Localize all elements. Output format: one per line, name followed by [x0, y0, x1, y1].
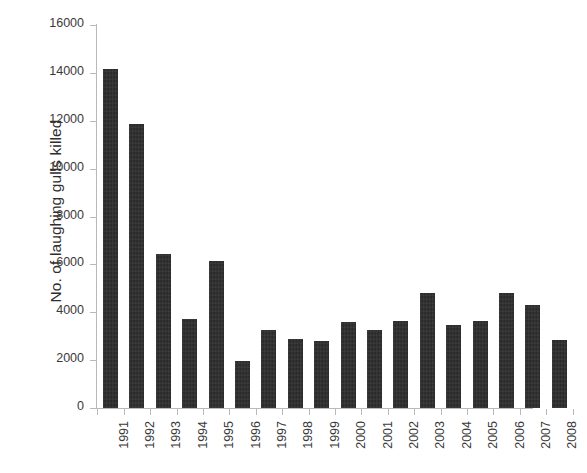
y-axis-tick-label: 16000 [49, 16, 84, 30]
bar [393, 321, 408, 408]
bar [261, 330, 276, 408]
x-axis-tick-mark [309, 409, 310, 415]
y-axis-tick-mark [90, 121, 96, 122]
bar [499, 293, 514, 408]
bar [209, 261, 224, 408]
x-axis-tick-mark [493, 409, 494, 415]
y-axis-tick-label: 6000 [56, 255, 84, 269]
x-axis-tick-label: 1992 [143, 421, 157, 473]
x-axis-tick-mark [150, 409, 151, 415]
bar [341, 322, 356, 408]
x-axis-tick-label: 2002 [407, 421, 421, 473]
x-axis-tick-mark [441, 409, 442, 415]
bar [129, 124, 144, 408]
bar [367, 330, 382, 408]
plot-area: 1600014000120001000080006000400020000 19… [96, 25, 532, 409]
x-axis-tick-label: 1991 [117, 421, 131, 473]
x-axis-tick-mark [177, 409, 178, 415]
x-axis-tick-mark [229, 409, 230, 415]
y-axis-tick-label: 0 [77, 399, 84, 413]
x-axis-tick-label: 1995 [222, 421, 236, 473]
x-axis-tick-mark [335, 409, 336, 415]
x-axis-tick-label: 2004 [460, 421, 474, 473]
x-axis-tick-mark [124, 409, 125, 415]
bar [288, 339, 303, 408]
x-axis-tick-mark [467, 409, 468, 415]
x-axis-tick-label: 1997 [275, 421, 289, 473]
y-axis-tick-label: 2000 [56, 351, 84, 365]
y-axis-tick-mark [90, 360, 96, 361]
y-axis-tick-mark [90, 25, 96, 26]
x-axis-tick-mark [203, 409, 204, 415]
bar [525, 305, 540, 408]
x-axis-tick-mark [282, 409, 283, 415]
bar [156, 254, 171, 408]
bar [552, 340, 567, 408]
y-axis-tick-mark [90, 217, 96, 218]
bar [473, 321, 488, 408]
x-axis-tick-mark [97, 409, 98, 415]
y-axis-tick-mark [90, 73, 96, 74]
x-axis-tick-mark [361, 409, 362, 415]
x-axis-tick-mark [546, 409, 547, 415]
y-axis-tick-label: 4000 [56, 303, 84, 317]
x-axis-tick-label: 2005 [486, 421, 500, 473]
x-axis-tick-mark [414, 409, 415, 415]
x-axis-tick-label: 2003 [433, 421, 447, 473]
x-axis-tick-label: 2006 [513, 421, 527, 473]
bar [103, 69, 118, 408]
x-axis-tick-label: 1999 [328, 421, 342, 473]
y-axis-tick-label: 8000 [56, 208, 84, 222]
y-axis-tick-label: 10000 [49, 160, 84, 174]
x-axis-tick-mark [388, 409, 389, 415]
bar-chart-figure: No. of laughing gulls killed 16000140001… [0, 0, 587, 473]
y-axis-tick-label: 12000 [49, 112, 84, 126]
x-axis-tick-label: 1996 [249, 421, 263, 473]
y-axis-tick-mark [90, 169, 96, 170]
y-axis-tick-mark [90, 408, 96, 409]
bar [420, 293, 435, 408]
x-axis-tick-label: 1998 [301, 421, 315, 473]
x-axis-tick-label: 1993 [169, 421, 183, 473]
x-axis-tick-label: 2000 [354, 421, 368, 473]
x-axis-tick-label: 1994 [196, 421, 210, 473]
x-axis-tick-label: 2001 [381, 421, 395, 473]
y-axis-tick-mark [90, 264, 96, 265]
bar [235, 361, 250, 408]
y-axis-line [96, 24, 97, 409]
x-axis-tick-mark [573, 409, 574, 415]
x-axis-tick-label: 2007 [539, 421, 553, 473]
x-axis-tick-mark [520, 409, 521, 415]
y-axis-tick-label: 14000 [49, 64, 84, 78]
y-axis-tick-mark [90, 312, 96, 313]
bar [446, 325, 461, 408]
x-axis-tick-label: 2008 [565, 421, 579, 473]
x-axis-tick-mark [256, 409, 257, 415]
bar [314, 341, 329, 408]
bar [182, 319, 197, 408]
